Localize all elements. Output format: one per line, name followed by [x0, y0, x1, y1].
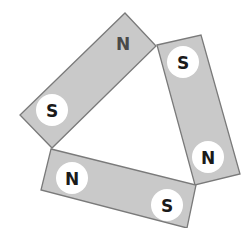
pole-label-s: S — [177, 53, 189, 73]
magnet-top-left: N S — [20, 13, 156, 148]
pole-label-n: N — [201, 148, 215, 168]
pole-label-s: S — [161, 196, 173, 216]
pole-label-s: S — [46, 101, 58, 121]
magnets-diagram: N S S N N S — [0, 0, 244, 228]
magnet-bottom: N S — [41, 149, 196, 228]
pole-label-n: N — [116, 34, 130, 54]
magnet-body — [20, 13, 156, 148]
pole-label-n: N — [65, 169, 79, 189]
magnet-right: S N — [157, 35, 240, 185]
